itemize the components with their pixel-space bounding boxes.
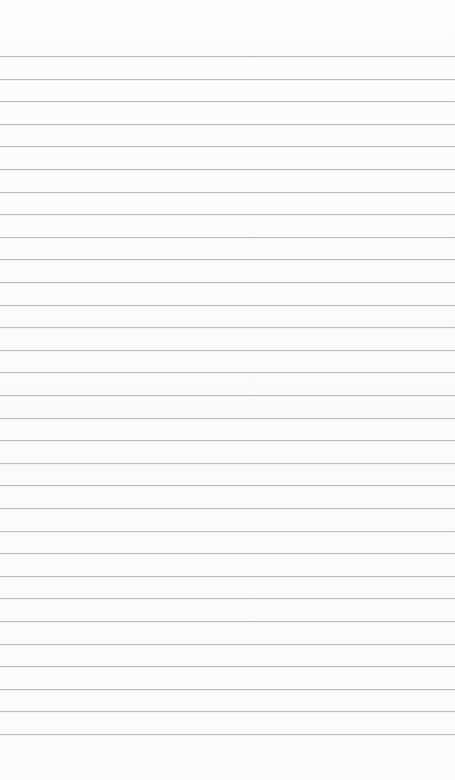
notepad-page	[0, 0, 455, 780]
note-text-area[interactable]	[0, 0, 455, 780]
